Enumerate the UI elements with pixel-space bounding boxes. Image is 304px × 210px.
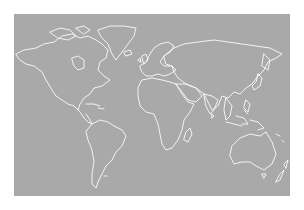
tasmania-outline — [262, 174, 266, 178]
hudson-bay-outline — [72, 56, 84, 70]
world-map — [14, 14, 290, 196]
africa-outline — [138, 78, 194, 150]
philippines-outline — [244, 100, 250, 112]
madagascar-outline — [184, 128, 192, 142]
asia-outline — [164, 40, 282, 110]
sri-lanka-outline — [212, 114, 214, 118]
southeast-asia-outline — [224, 98, 232, 120]
central-america-outline — [74, 106, 92, 124]
arabia-outline — [176, 84, 202, 102]
south-america-outline — [86, 120, 126, 188]
world-map-outlines — [14, 14, 290, 196]
indonesia-outline — [226, 110, 264, 130]
pacific-islands-outline — [276, 134, 284, 142]
new-zealand-outline — [276, 160, 288, 182]
caribbean-outline — [86, 104, 104, 109]
british-isles-outline — [138, 54, 148, 64]
india-outline — [204, 94, 218, 114]
europe-outline — [140, 42, 176, 76]
iceland-outline — [124, 50, 132, 56]
arctic-islands-outline — [50, 26, 90, 40]
australia-outline — [230, 132, 276, 170]
north-america-outline — [16, 34, 110, 110]
